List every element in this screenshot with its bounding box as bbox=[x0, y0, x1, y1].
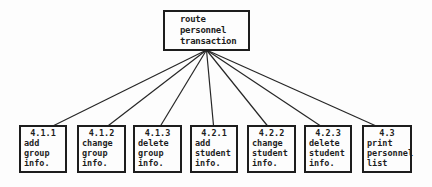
node-label-line: info. bbox=[135, 158, 180, 168]
node-label-line: list bbox=[364, 158, 410, 168]
node-label-line: group bbox=[135, 148, 180, 158]
node-label-line: delete bbox=[135, 138, 180, 148]
node-label-line: student bbox=[306, 148, 350, 158]
child-node-delete-student: 4.2.3 delete student info. bbox=[304, 125, 352, 173]
node-label-line: print bbox=[364, 138, 410, 148]
node-label-line: info. bbox=[192, 158, 236, 168]
node-number: 4.1.2 bbox=[79, 128, 124, 138]
node-label-line: info. bbox=[249, 158, 294, 168]
node-number: 4.3 bbox=[364, 128, 410, 138]
node-label-line: info. bbox=[79, 158, 124, 168]
node-number: 4.2.1 bbox=[192, 128, 236, 138]
root-node-line: personnel bbox=[180, 25, 248, 36]
node-number: 4.2.2 bbox=[249, 128, 294, 138]
node-number: 4.2.3 bbox=[306, 128, 350, 138]
node-label-line: info. bbox=[21, 158, 65, 168]
root-node-line: transaction bbox=[180, 36, 248, 47]
child-node-change-group: 4.1.2 change group info. bbox=[77, 125, 126, 173]
diagram-canvas: route personnel transaction 4.1.1 add gr… bbox=[0, 0, 432, 187]
child-node-add-group: 4.1.1 add group info. bbox=[19, 125, 67, 173]
child-node-delete-group: 4.1.3 delete group info. bbox=[133, 125, 182, 173]
child-node-add-student: 4.2.1 add student info. bbox=[190, 125, 238, 173]
child-node-change-student: 4.2.2 change student info. bbox=[247, 125, 296, 173]
node-label-line: group bbox=[79, 148, 124, 158]
node-label-line: add bbox=[192, 138, 236, 148]
node-label-line: personnel bbox=[364, 148, 410, 158]
node-label-line: info. bbox=[306, 158, 350, 168]
node-label-line: change bbox=[79, 138, 124, 148]
node-number: 4.1.1 bbox=[21, 128, 65, 138]
node-label-line: group bbox=[21, 148, 65, 158]
node-label-line: delete bbox=[306, 138, 350, 148]
root-node: route personnel transaction bbox=[163, 10, 250, 51]
node-label-line: change bbox=[249, 138, 294, 148]
node-number: 4.1.3 bbox=[135, 128, 180, 138]
child-node-print-personnel: 4.3 print personnel list bbox=[362, 125, 412, 173]
node-label-line: student bbox=[249, 148, 294, 158]
node-label-line: add bbox=[21, 138, 65, 148]
root-node-line: route bbox=[180, 14, 248, 25]
node-label-line: student bbox=[192, 148, 236, 158]
